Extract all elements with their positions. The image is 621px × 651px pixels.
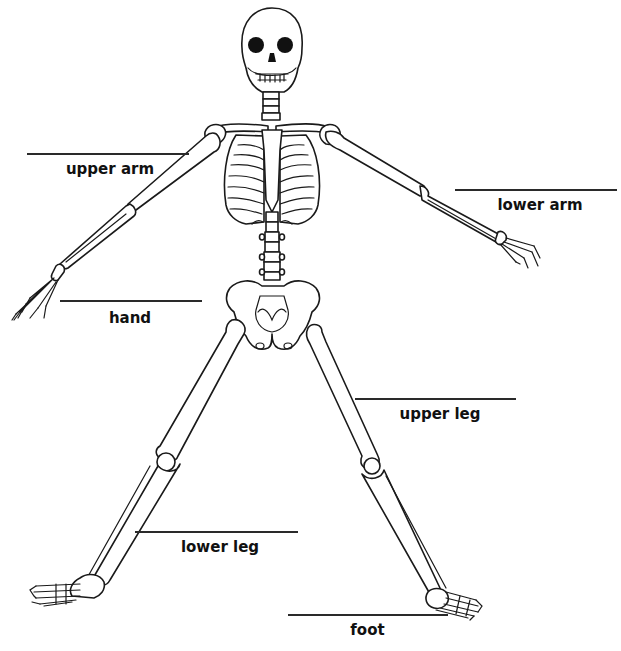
hand-label-line <box>60 300 202 302</box>
upper-arm-label: upper arm <box>55 160 165 178</box>
right-hand <box>495 231 540 268</box>
upper-leg-label: upper leg <box>390 405 490 423</box>
hand-label: hand <box>100 309 160 327</box>
skull <box>242 8 302 92</box>
left-hand <box>12 264 64 320</box>
foot-label: foot <box>340 621 395 639</box>
foot-label-line <box>288 614 448 616</box>
lower-arm-label: lower arm <box>480 196 600 214</box>
left-foot <box>30 575 104 606</box>
neck <box>262 92 280 120</box>
lower-arm-label-line <box>455 189 617 191</box>
lower-leg-label: lower leg <box>170 538 270 556</box>
right-arm <box>326 131 503 242</box>
upper-leg-label-line <box>355 398 516 400</box>
right-leg <box>307 325 446 596</box>
lower-leg-label-line <box>135 531 298 533</box>
upper-arm-label-line <box>27 153 189 155</box>
ribcage <box>224 130 319 224</box>
skeleton-diagram <box>0 0 621 651</box>
